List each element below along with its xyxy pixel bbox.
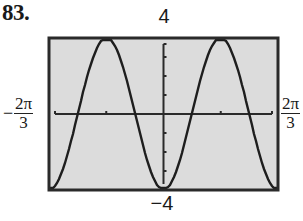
graph-screen <box>0 0 303 221</box>
